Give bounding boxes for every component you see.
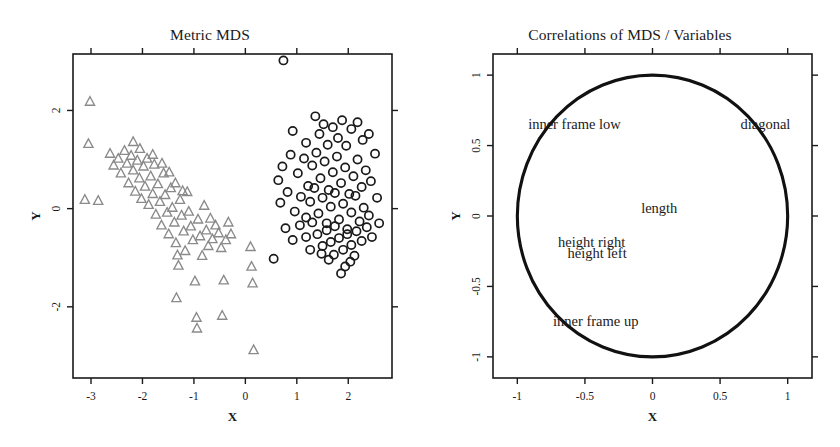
data-point-triangle [151,210,160,219]
data-point-triangle [195,231,204,240]
panel-correlations: Correlations of MDS / Variables -1-0.500… [420,0,840,447]
variable-label: diagonal [740,116,790,132]
data-point-circle [355,217,363,225]
data-point-circle [302,139,310,147]
data-point-circle [289,127,297,135]
data-point-triangle [192,313,201,322]
data-point-circle [334,134,342,142]
y-tick-label: -1 [470,352,482,362]
data-point-circle [347,208,355,216]
data-point-circle [279,56,287,64]
metric-mds-plot: -3-2-101220-2XY [0,0,420,447]
data-point-triangle [218,311,227,320]
data-point-triangle [140,182,149,191]
data-point-triangle [248,278,257,287]
data-point-triangle [202,225,211,234]
data-point-circle [327,203,335,211]
data-point-triangle [129,137,138,146]
data-point-triangle [226,229,235,238]
data-point-triangle [247,262,256,271]
data-point-triangle [171,178,180,187]
data-point-triangle [124,178,133,187]
data-point-circle [315,130,323,138]
x-tick-label: 0 [242,390,248,402]
data-point-circle [324,141,332,149]
data-point-circle [294,169,302,177]
data-point-circle [373,194,381,202]
data-point-circle [358,183,366,191]
data-point-circle [337,179,345,187]
scatter-points [80,56,383,353]
data-point-circle [302,233,310,241]
data-point-triangle [105,149,114,158]
data-point-circle [308,218,316,226]
x-tick-label: 1 [785,390,791,402]
x-tick-label: -0.5 [576,390,594,402]
data-point-circle [283,188,291,196]
variable-label: height left [567,245,626,261]
data-point-triangle [200,201,209,210]
x-tick-label: 2 [345,390,351,402]
x-tick-label: -1 [513,390,523,402]
data-point-circle [330,251,338,259]
data-point-circle [314,209,322,217]
data-point-circle [349,172,357,180]
x-axis-label: X [228,409,238,424]
y-tick-label: 0 [50,206,62,212]
data-point-circle [313,230,321,238]
data-point-circle [308,161,316,169]
data-point-circle [274,176,282,184]
data-point-circle [318,242,326,250]
data-point-triangle [181,246,190,255]
data-point-triangle [157,220,166,229]
x-tick-label: -1 [189,390,199,402]
data-point-triangle [171,238,180,247]
mds-figure: Metric MDS -3-2-101220-2XY Correlations … [0,0,840,447]
y-axis-label: Y [448,211,463,221]
data-point-circle [331,222,339,230]
data-point-circle [335,234,343,242]
data-point-circle [371,150,379,158]
data-point-circle [316,174,324,182]
scatter-series-group-triangles [80,97,258,354]
data-point-circle [300,154,308,162]
data-point-circle [353,118,361,126]
y-axis-label: Y [28,211,43,221]
variable-labels: inner frame lowdiagonallengthheight righ… [528,116,790,329]
x-tick-label: -3 [86,390,96,402]
data-point-circle [342,142,350,150]
data-point-triangle [85,97,94,106]
y-tick-label: 0 [470,213,482,219]
data-point-circle [289,236,297,244]
data-point-circle [312,149,320,157]
data-point-circle [375,219,383,227]
data-point-circle [291,207,299,215]
data-point-triangle [208,234,217,243]
x-tick-label: 0 [650,390,656,402]
data-point-triangle [219,275,228,284]
data-point-circle [319,120,327,128]
panel-metric-mds: Metric MDS -3-2-101220-2XY [0,0,420,447]
data-point-triangle [246,242,255,251]
data-point-triangle [157,158,166,167]
x-tick-label: -2 [138,390,148,402]
data-point-circle [297,193,305,201]
data-point-triangle [164,229,173,238]
variable-label: inner frame low [528,116,621,132]
data-point-circle [281,224,289,232]
data-point-circle [347,125,355,133]
data-point-triangle [148,150,157,159]
data-point-circle [320,157,328,165]
data-point-circle [339,246,347,254]
data-point-circle [278,162,286,170]
data-point-circle [347,241,355,249]
data-point-circle [306,198,314,206]
data-point-circle [329,168,337,176]
x-axis-label: X [648,409,658,424]
variable-label: length [641,200,678,216]
data-point-circle [333,153,341,161]
data-point-triangle [190,276,199,285]
data-point-circle [358,237,366,245]
data-point-circle [360,204,368,212]
x-tick-label: 1 [294,390,300,402]
